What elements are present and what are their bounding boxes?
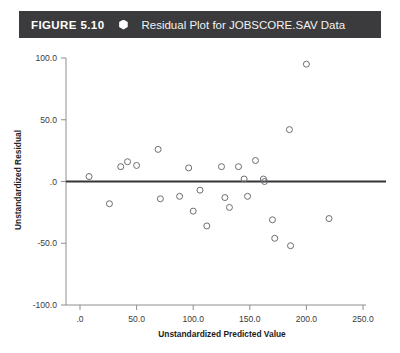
data-point [326,216,332,222]
data-point [286,127,292,133]
data-point [204,223,210,229]
data-points-group [86,61,332,249]
data-point [222,195,228,201]
y-tick-label: -50.0 [37,238,57,248]
data-point [118,164,124,170]
x-tick-label: .0 [76,314,83,324]
data-point [134,162,140,168]
x-tick-label: 250.0 [352,314,374,324]
data-point [190,208,196,214]
residual-scatter-chart: -100.0-50.0.050.0100.0 .050.0100.0150.02… [0,0,400,353]
x-tick-label: 100.0 [182,314,204,324]
y-tick-label: 50.0 [40,115,57,125]
data-point [155,146,161,152]
data-point [186,165,192,171]
data-point [197,187,203,193]
y-tick-label: 100.0 [35,53,57,63]
data-point [157,196,163,202]
data-point [269,217,275,223]
x-axis-ticks: .050.0100.0150.0200.0250.0 [76,305,374,324]
data-point [125,159,131,165]
data-point [219,164,225,170]
data-point [245,193,251,199]
chart-svg: -100.0-50.0.050.0100.0 .050.0100.0150.02… [0,0,400,353]
x-tick-label: 50.0 [128,314,145,324]
x-tick-label: 150.0 [239,314,261,324]
data-point [235,164,241,170]
data-point [252,158,258,164]
data-point [288,243,294,249]
y-tick-label: .0 [50,177,57,187]
x-tick-label: 200.0 [296,314,318,324]
data-point [86,174,92,180]
data-point [177,193,183,199]
y-axis-ticks: -100.0-50.0.050.0100.0 [33,53,66,310]
x-axis-title: Unstandardized Predicted Value [158,329,286,339]
data-point [303,61,309,67]
data-point [226,204,232,210]
data-point [272,235,278,241]
data-point [106,201,112,207]
y-tick-label: -100.0 [33,300,58,310]
y-axis-title: Unstandardized Residual [13,130,23,230]
